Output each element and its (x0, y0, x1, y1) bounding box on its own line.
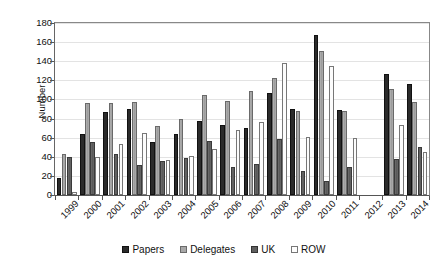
bars-layer (55, 23, 429, 195)
bar-group (172, 23, 195, 195)
bar-uk-2010 (324, 181, 329, 195)
y-tick-label: 80 (6, 114, 52, 123)
x-tick-mark (406, 196, 407, 200)
bar-chart: Number 020406080100120140160180 19992000… (0, 0, 448, 267)
y-tick-label: 100 (6, 94, 52, 103)
bar-papers-2005 (197, 121, 202, 195)
legend-item-delegates[interactable]: Delegates (180, 244, 235, 255)
bar-row-2006 (236, 130, 241, 195)
bar-group (78, 23, 101, 195)
bar-row-2005 (212, 149, 217, 195)
x-tick-mark (195, 196, 196, 200)
bar-group (55, 23, 78, 195)
legend-item-uk[interactable]: UK (251, 244, 275, 255)
bar-row-2004 (189, 156, 194, 195)
bar-row-2000 (95, 157, 100, 195)
bar-uk-2009 (301, 171, 306, 195)
bar-row-2001 (119, 144, 124, 195)
y-tick-label: 60 (6, 133, 52, 142)
bar-group (336, 23, 359, 195)
bar-uk-2013 (394, 159, 399, 195)
bar-row-2009 (306, 137, 311, 195)
bar-uk-1999 (67, 157, 72, 195)
x-tick-mark (336, 196, 337, 200)
bar-papers-2014 (407, 84, 412, 195)
bar-delegates-2000 (85, 103, 90, 195)
bar-uk-2005 (207, 141, 212, 195)
y-tick-label: 180 (6, 18, 52, 27)
y-tick-label: 160 (6, 37, 52, 46)
bar-row-2003 (166, 160, 171, 195)
delegates-swatch-icon (180, 246, 187, 253)
bar-delegates-2002 (132, 102, 137, 195)
bar-uk-2003 (160, 161, 165, 195)
bar-papers-2001 (103, 112, 108, 195)
bar-uk-2014 (418, 147, 423, 195)
x-tick-mark (289, 196, 290, 200)
row-swatch-icon (291, 246, 298, 253)
bar-delegates-2014 (412, 102, 417, 195)
bar-row-2011 (353, 138, 358, 195)
uk-swatch-icon (251, 246, 258, 253)
bar-uk-2008 (277, 139, 282, 195)
bar-uk-2006 (231, 167, 236, 195)
bar-papers-2004 (174, 134, 179, 195)
bar-delegates-2013 (389, 89, 394, 195)
bar-papers-2010 (314, 35, 319, 195)
y-axis-ticks: 020406080100120140160180 (0, 0, 52, 267)
bar-row-2007 (259, 122, 264, 195)
papers-swatch-icon (122, 246, 129, 253)
bar-papers-2009 (290, 109, 295, 195)
bar-row-2013 (399, 125, 404, 195)
legend-label: Delegates (190, 244, 235, 255)
x-tick-mark (219, 196, 220, 200)
legend-label: Papers (132, 244, 164, 255)
x-tick-mark (55, 196, 56, 200)
bar-row-2002 (142, 133, 147, 195)
bar-group (102, 23, 125, 195)
bar-uk-2002 (137, 165, 142, 195)
bar-papers-1999 (57, 178, 62, 195)
bar-delegates-1999 (62, 154, 67, 195)
y-tick-label: 120 (6, 75, 52, 84)
bar-delegates-2003 (155, 126, 160, 195)
bar-row-2008 (282, 63, 287, 195)
bar-row-1999 (72, 192, 77, 195)
bar-group (312, 23, 335, 195)
bar-delegates-2007 (249, 91, 254, 195)
bar-group (219, 23, 242, 195)
legend: PapersDelegatesUKROW (0, 244, 448, 255)
y-tick-label: 140 (6, 56, 52, 65)
bar-delegates-2005 (202, 95, 207, 195)
bar-delegates-2006 (225, 101, 230, 195)
bar-group (359, 23, 382, 195)
bar-group (125, 23, 148, 195)
bar-papers-2002 (127, 109, 132, 195)
legend-label: ROW (301, 244, 325, 255)
bar-papers-2007 (244, 128, 249, 195)
x-tick-mark (312, 196, 313, 200)
bar-delegates-2001 (109, 103, 114, 195)
x-tick-mark (265, 196, 266, 200)
bar-group (149, 23, 172, 195)
bar-papers-2011 (337, 110, 342, 195)
legend-item-papers[interactable]: Papers (122, 244, 164, 255)
x-tick-mark (172, 196, 173, 200)
bar-group (242, 23, 265, 195)
bar-group (289, 23, 312, 195)
bar-papers-2006 (220, 125, 225, 195)
x-tick-mark (359, 196, 360, 200)
y-tick-label: 0 (6, 190, 52, 199)
legend-item-row[interactable]: ROW (291, 244, 325, 255)
bar-papers-2003 (150, 142, 155, 195)
x-tick-mark (149, 196, 150, 200)
bar-group (195, 23, 218, 195)
bar-delegates-2004 (179, 119, 184, 195)
bar-uk-2011 (347, 167, 352, 195)
legend-label: UK (261, 244, 275, 255)
bar-papers-2013 (384, 74, 389, 195)
bar-uk-2001 (114, 154, 119, 195)
bar-row-2014 (423, 152, 428, 195)
x-axis-labels: 1999200020012002200320042005200620072008… (55, 196, 429, 244)
bar-delegates-2011 (342, 111, 347, 195)
